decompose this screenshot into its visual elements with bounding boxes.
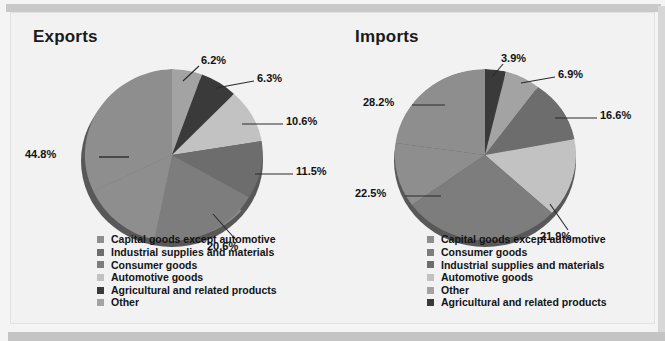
- imports-title: Imports: [355, 27, 419, 47]
- legend-item-label: Other: [441, 284, 469, 297]
- legend-item-label: Consumer goods: [111, 259, 197, 272]
- legend-item[interactable]: Consumer goods: [97, 259, 277, 272]
- exports-slices: [85, 69, 263, 241]
- imports-label-other: 6.9%: [558, 68, 583, 80]
- legend-item[interactable]: Automotive goods: [427, 271, 607, 284]
- legend-item-label: Automotive goods: [111, 271, 203, 284]
- legend-item[interactable]: Other: [97, 296, 277, 309]
- legend-swatch-icon: [427, 249, 434, 256]
- exports-label-automotive: 10.6%: [286, 115, 317, 127]
- legend-swatch-icon: [427, 299, 434, 306]
- imports-label-agricultural: 3.9%: [501, 52, 526, 64]
- legend-item-label: Agricultural and related products: [111, 284, 277, 297]
- exports-label-industrial: 11.5%: [296, 165, 327, 177]
- exports-chart: Exports: [11, 13, 333, 325]
- legend-item[interactable]: Automotive goods: [97, 271, 277, 284]
- legend-item-label: Industrial supplies and materials: [111, 246, 274, 259]
- frame-edge-top: [6, 4, 661, 12]
- legend-item-label: Other: [111, 296, 139, 309]
- legend-swatch-icon: [427, 236, 434, 243]
- imports-pie-svg: [333, 63, 655, 248]
- legend-item-label: Capital goods except automotive: [441, 233, 606, 246]
- imports-label-capital-goods: 28.2%: [363, 96, 394, 108]
- imports-legend: Capital goods except automotive Consumer…: [427, 233, 607, 309]
- legend-swatch-icon: [97, 299, 104, 306]
- exports-pie: 44.8% 6.2% 6.3% 10.6% 11.5% 20.6%: [11, 63, 333, 248]
- legend-item[interactable]: Capital goods except automotive: [97, 233, 277, 246]
- figure-page: Exports: [0, 0, 665, 341]
- imports-chart: Imports: [333, 13, 655, 325]
- legend-item[interactable]: Agricultural and related products: [427, 296, 607, 309]
- legend-item-label: Industrial supplies and materials: [441, 259, 604, 272]
- legend-swatch-icon: [97, 249, 104, 256]
- imports-pie: 28.2% 3.9% 6.9% 16.6% 21.9% 22.5%: [333, 63, 655, 248]
- frame-edge-bottom: [8, 332, 665, 341]
- legend-swatch-icon: [97, 287, 104, 294]
- legend-item-label: Consumer goods: [441, 246, 527, 259]
- legend-item[interactable]: Industrial supplies and materials: [97, 246, 277, 259]
- exports-pie-svg: [11, 63, 333, 248]
- imports-label-consumer: 22.5%: [355, 187, 386, 199]
- legend-swatch-icon: [427, 287, 434, 294]
- legend-swatch-icon: [427, 274, 434, 281]
- frame-edge-right: [658, 6, 665, 338]
- exports-label-other: 6.2%: [201, 54, 226, 66]
- legend-item[interactable]: Agricultural and related products: [97, 284, 277, 297]
- legend-swatch-icon: [97, 274, 104, 281]
- exports-label-agricultural: 6.3%: [257, 72, 282, 84]
- legend-item[interactable]: Capital goods except automotive: [427, 233, 607, 246]
- imports-slices: [395, 69, 577, 240]
- legend-swatch-icon: [97, 261, 104, 268]
- exports-legend: Capital goods except automotive Industri…: [97, 233, 277, 309]
- slice-capital-goods: [396, 69, 486, 155]
- legend-item[interactable]: Consumer goods: [427, 246, 607, 259]
- exports-title: Exports: [33, 27, 98, 47]
- legend-item-label: Automotive goods: [441, 271, 533, 284]
- chart-panel: Exports: [10, 12, 655, 324]
- imports-label-industrial: 16.6%: [600, 109, 631, 121]
- legend-swatch-icon: [97, 236, 104, 243]
- legend-item[interactable]: Other: [427, 284, 607, 297]
- legend-swatch-icon: [427, 261, 434, 268]
- legend-item-label: Capital goods except automotive: [111, 233, 276, 246]
- exports-label-capital-goods: 44.8%: [25, 148, 56, 160]
- legend-item[interactable]: Industrial supplies and materials: [427, 259, 607, 272]
- legend-item-label: Agricultural and related products: [441, 296, 607, 309]
